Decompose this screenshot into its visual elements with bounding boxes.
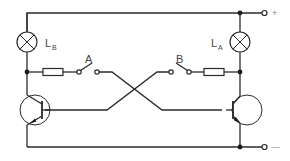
lamp-la-label: L — [211, 37, 217, 49]
positive-terminal-label: + — [272, 8, 277, 18]
switch-b-contact-2 — [169, 70, 173, 74]
negative-terminal-label: — — [271, 142, 280, 152]
switch-a-contact-2 — [95, 70, 99, 74]
negative-terminal[interactable] — [262, 145, 267, 150]
lamp-la: L A — [211, 13, 250, 96]
resistor-right-icon — [204, 69, 224, 76]
circuit-diagram: + L B L A A — [0, 0, 290, 161]
cross-wire-a — [99, 72, 222, 110]
lamp-lb: L B — [17, 13, 57, 95]
switch-b-label: B — [176, 53, 183, 65]
left-base-network: A — [25, 53, 222, 110]
lamp-lb-subscript: B — [52, 44, 57, 51]
transistor-left — [20, 95, 50, 147]
lamp-lb-label: L — [45, 37, 51, 49]
switch-a-label: A — [85, 53, 93, 65]
lamp-la-subscript: A — [218, 44, 223, 51]
resistor-left-icon — [43, 69, 63, 76]
cross-wire-b — [45, 72, 169, 110]
junction-dot-bottom-right — [238, 145, 243, 150]
right-base-network: B — [45, 53, 242, 110]
transistor-right — [226, 95, 262, 147]
positive-terminal[interactable] — [262, 11, 267, 16]
negative-rail: — — [27, 142, 280, 152]
